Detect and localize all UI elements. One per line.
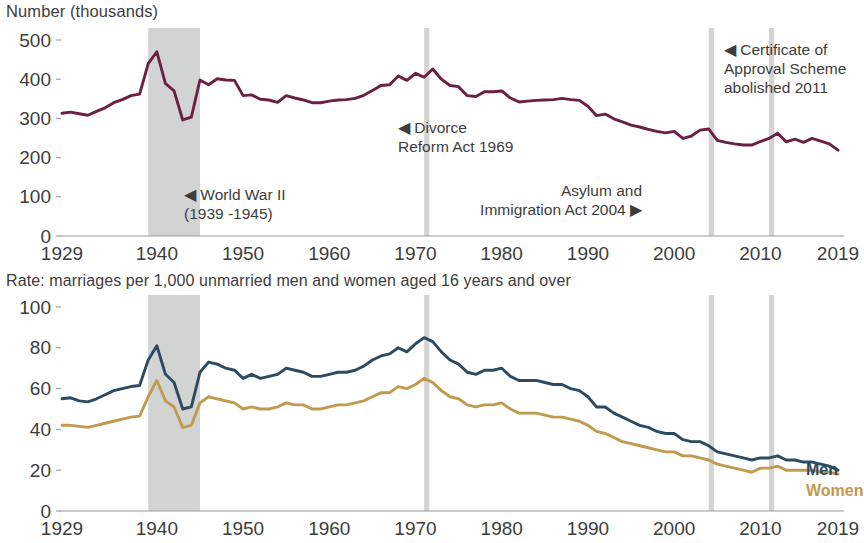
bottom-chart-svg: 0204060801001929194019501960197019801990… <box>0 272 864 543</box>
y-tick-label: 40 <box>30 419 51 440</box>
x-tick-label: 1960 <box>308 518 350 539</box>
y-tick-label: 20 <box>30 460 51 481</box>
x-tick-label: 1980 <box>481 243 523 262</box>
annotation-line: Reform Act 1969 <box>398 138 513 155</box>
y-tick-label: 300 <box>19 108 51 129</box>
x-tick-label: 1990 <box>567 243 609 262</box>
annotation-line: ◀ Divorce <box>398 119 467 136</box>
x-tick-label: 1950 <box>222 518 264 539</box>
x-tick-label: 1940 <box>136 243 178 262</box>
annotation-line: ◀ World War II <box>184 186 286 203</box>
y-tick-label: 80 <box>30 337 51 358</box>
annotation-line: Immigration Act 2004 ▶ <box>480 201 643 218</box>
y-tick-label: 100 <box>19 297 51 318</box>
shaded-band-1 <box>424 295 429 511</box>
x-tick-label: 2010 <box>739 518 781 539</box>
annotation-divorce: ◀ DivorceReform Act 1969 <box>398 119 513 155</box>
x-tick-label: 1980 <box>481 518 523 539</box>
x-tick-label: 1990 <box>567 518 609 539</box>
y-tick-label: 100 <box>19 186 51 207</box>
shaded-band-3 <box>769 295 774 511</box>
x-tick-label: 2019 <box>817 243 859 262</box>
x-tick-label: 1950 <box>222 243 264 262</box>
x-tick-label: 1960 <box>308 243 350 262</box>
legend-label-women: Women <box>806 482 863 499</box>
legend-label-men: Men <box>806 461 838 478</box>
x-tick-label: 1970 <box>394 518 436 539</box>
annotation-certificate: ◀ Certificate ofApproval Schemeabolished… <box>724 41 846 96</box>
annotation-line: Asylum and <box>561 182 642 199</box>
y-tick-label: 60 <box>30 378 51 399</box>
annotation-line: (1939 -1945) <box>184 205 273 222</box>
x-tick-label: 2010 <box>739 243 781 262</box>
annotation-line: Approval Scheme <box>724 60 846 77</box>
x-tick-label: 1929 <box>41 518 83 539</box>
annotation-asylum: Asylum andImmigration Act 2004 ▶ <box>480 182 643 218</box>
annotation-line: ◀ Certificate of <box>724 41 828 58</box>
top-chart-svg: 0100200300400500192919401950196019701980… <box>0 0 864 262</box>
shaded-band-2 <box>709 295 714 511</box>
y-tick-label: 400 <box>19 69 51 90</box>
chart-page: Number (thousands) 010020030040050019291… <box>0 0 864 543</box>
marriages-number-chart: Number (thousands) 010020030040050019291… <box>0 0 864 262</box>
annotation-line: abolished 2011 <box>724 79 828 96</box>
x-tick-label: 2000 <box>653 243 695 262</box>
y-tick-label: 200 <box>19 147 51 168</box>
x-tick-label: 1929 <box>41 243 83 262</box>
y-tick-label: 500 <box>19 30 51 51</box>
x-tick-label: 2000 <box>653 518 695 539</box>
marriage-rate-chart: Rate: marriages per 1,000 unmarried men … <box>0 272 864 543</box>
x-tick-label: 1940 <box>136 518 178 539</box>
x-tick-label: 2019 <box>817 518 859 539</box>
x-tick-label: 1970 <box>394 243 436 262</box>
